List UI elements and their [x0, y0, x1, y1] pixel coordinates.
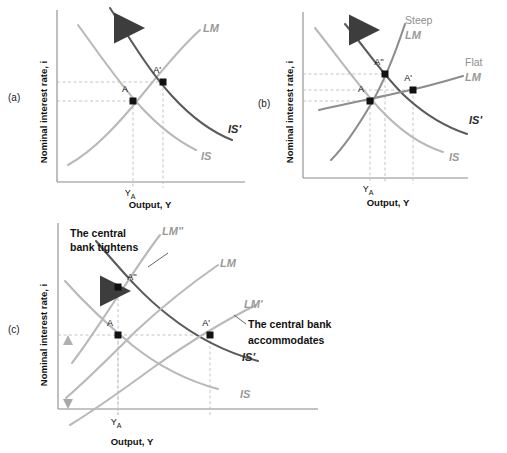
panel-c-accommodates-leader — [234, 315, 246, 324]
panel-c-point-A-prime — [207, 332, 214, 339]
panel-b-label-steep-LM-line2: LM — [405, 29, 422, 41]
panel-b-point-A-double-prime — [382, 71, 389, 78]
panel-b-y-axis-title: Nominal interest rate, i — [284, 61, 295, 163]
panel-b-point-A — [367, 98, 374, 105]
panel-c-curve-LM — [66, 265, 218, 398]
panel-a-curve-IS — [78, 25, 196, 150]
panel-c-tag: (c) — [8, 324, 20, 335]
panel-a-point-A-prime-label: A' — [153, 65, 161, 75]
panel-c-point-A-double-prime — [115, 284, 122, 291]
panel-c-tick-YA: YA — [111, 417, 122, 429]
panel-b-point-A-prime — [410, 87, 417, 94]
panel-a-point-A-label: A — [122, 84, 128, 94]
panel-c-point-A-double-prime-label: A'' — [127, 272, 137, 282]
panel-b-label-flat-LM-line2: LM — [465, 71, 482, 83]
panel-a-point-A-prime — [160, 79, 167, 86]
panel-c-label-IS: IS — [240, 388, 251, 400]
panel-a-label-IS-prime: IS' — [228, 123, 241, 135]
panel-c-y-axis-title: Nominal interest rate, i — [38, 284, 49, 386]
panel-b-point-A-prime-label: A' — [404, 73, 412, 83]
panel-c-point-A — [115, 332, 122, 339]
panel-b-label-IS: IS — [449, 151, 460, 163]
panel-b: Nominal interest rate, i A A'' — [253, 0, 507, 210]
panel-c-label-LM-double-prime: LM'' — [162, 225, 183, 237]
panel-b-curve-steep-LM — [331, 24, 405, 160]
panel-a-point-A — [130, 98, 137, 105]
panel-c-curve-LM-double-prime — [72, 235, 160, 363]
panel-b-point-A-label: A — [358, 84, 364, 94]
panel-c-label-LM-prime: LM' — [244, 298, 263, 310]
panel-c: Nominal interest rate, i — [22, 213, 352, 453]
panel-c-point-A-prime-label: A' — [202, 318, 210, 328]
panel-c-label-LM: LM — [220, 257, 237, 269]
panel-b-tick-YA: YA — [363, 184, 374, 196]
panel-b-label-IS-prime: IS' — [469, 114, 482, 126]
panel-b-label-steep-LM-line1: Steep — [405, 14, 433, 26]
panel-b-point-A-double-prime-label: A'' — [374, 57, 384, 67]
panel-a: Nominal interest rate, i A A' LM — [0, 0, 254, 210]
panel-c-point-A-label: A — [107, 318, 113, 328]
panel-c-accommodates-annotation-line1: The central bank — [248, 318, 332, 330]
panel-a-y-axis-title: Nominal interest rate, i — [38, 61, 49, 163]
panel-c-accommodates-annotation-line2: accommodates — [248, 334, 325, 346]
panel-a-x-axis-title: Output, Y — [129, 199, 172, 210]
panel-c-tightens-leader — [148, 253, 168, 267]
panel-b-label-flat-LM-line1: Flat — [465, 56, 483, 68]
panel-c-label-IS-prime: IS' — [242, 351, 255, 363]
panel-c-tightens-annotation-line2: bank tightens — [70, 241, 138, 253]
panel-c-x-axis-title: Output, Y — [111, 436, 154, 447]
figure-root: (a) Nominal interest rate, i — [0, 0, 507, 453]
panel-c-tightens-annotation-line1: The central — [70, 227, 126, 239]
panel-a-label-IS: IS — [201, 150, 212, 162]
panel-a-label-LM: LM — [203, 22, 220, 34]
panel-b-x-axis-title: Output, Y — [367, 197, 410, 208]
